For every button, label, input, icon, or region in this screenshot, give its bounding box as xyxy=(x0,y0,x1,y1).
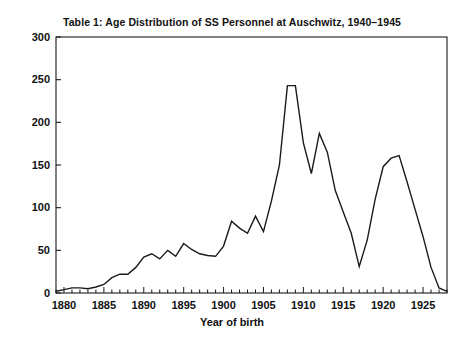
x-axis-tick-label: 1900 xyxy=(202,300,246,311)
x-axis-tick-label: 1895 xyxy=(162,300,206,311)
x-axis-tick-label: 1920 xyxy=(361,300,405,311)
x-axis-tick-label: 1915 xyxy=(321,300,365,311)
x-axis-tick-label: 1880 xyxy=(42,300,86,311)
y-axis-tick-label: 100 xyxy=(16,202,50,213)
y-axis-tick-label: 150 xyxy=(16,160,50,171)
chart-figure: Table 1: Age Distribution of SS Personne… xyxy=(0,0,464,342)
y-axis-tick-label: 200 xyxy=(16,117,50,128)
line-chart-plot xyxy=(0,0,464,342)
y-axis-tick-label: 0 xyxy=(16,288,50,299)
y-axis-tick-label: 50 xyxy=(16,245,50,256)
x-axis-tick-label: 1910 xyxy=(281,300,325,311)
x-axis-label: Year of birth xyxy=(0,316,464,328)
x-axis-tick-label: 1905 xyxy=(241,300,285,311)
x-axis-tick-label: 1885 xyxy=(82,300,126,311)
x-axis-tick-label: 1890 xyxy=(122,300,166,311)
y-axis-tick-label: 300 xyxy=(16,32,50,43)
y-axis-tick-label: 250 xyxy=(16,74,50,85)
x-axis-tick-label: 1925 xyxy=(401,300,445,311)
